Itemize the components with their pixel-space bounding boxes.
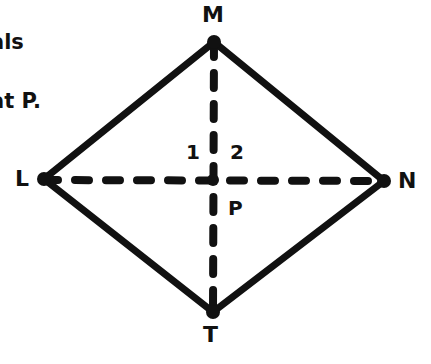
vertex-L-dot bbox=[37, 172, 51, 186]
vertex-N-dot bbox=[377, 174, 391, 188]
rhombus-diagram bbox=[0, 0, 431, 364]
intersection-P-dot bbox=[207, 174, 219, 186]
vertex-label-T: T bbox=[203, 322, 218, 347]
vertex-M-dot bbox=[207, 35, 221, 49]
vertex-label-L: L bbox=[15, 166, 29, 191]
intersection-label-P: P bbox=[228, 196, 243, 220]
vertex-T-dot bbox=[206, 305, 220, 319]
side-LT bbox=[44, 179, 213, 312]
vertex-label-N: N bbox=[398, 168, 416, 193]
vertex-label-M: M bbox=[202, 2, 224, 27]
angle-label-2: 2 bbox=[230, 140, 244, 164]
angle-label-1: 1 bbox=[186, 140, 200, 164]
